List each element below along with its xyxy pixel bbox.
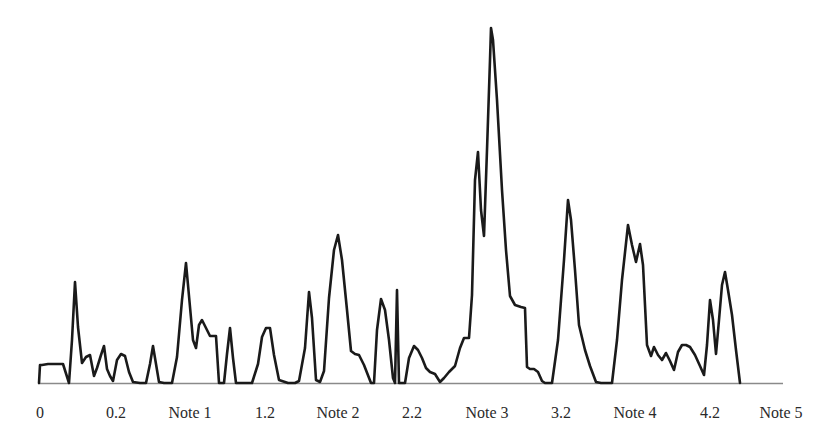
x-tick-label: Note 5 <box>759 404 802 421</box>
x-tick-label: 4.2 <box>700 404 720 421</box>
x-tick-label: 3.2 <box>551 404 571 421</box>
x-tick-label: 1.2 <box>255 404 275 421</box>
x-tick-label: Note 1 <box>168 404 211 421</box>
x-axis-tick-labels: 0 0.2 Note 1 1.2 Note 2 2.2 Note 3 3.2 N… <box>36 404 803 421</box>
waveform-chart: 0 0.2 Note 1 1.2 Note 2 2.2 Note 3 3.2 N… <box>0 0 840 448</box>
waveform-line <box>39 28 740 383</box>
x-tick-label: 2.2 <box>402 404 422 421</box>
x-tick-label: Note 2 <box>316 404 359 421</box>
x-tick-label: 0 <box>36 404 44 421</box>
x-tick-label: Note 4 <box>613 404 656 421</box>
x-tick-label: 0.2 <box>106 404 126 421</box>
x-tick-label: Note 3 <box>465 404 508 421</box>
